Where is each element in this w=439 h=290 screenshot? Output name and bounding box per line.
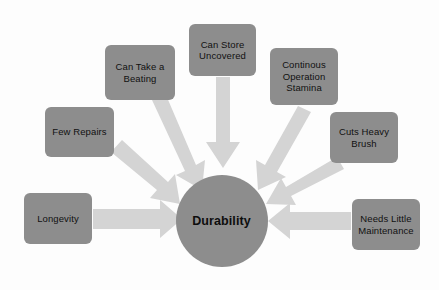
node-label-cuts-heavy-brush: Cuts Heavy Brush — [339, 126, 389, 149]
node-label-continous-operation-stamina: Continous Operation Stamina — [282, 59, 326, 94]
node-label-longevity: Longevity — [37, 213, 79, 225]
node-label-few-repairs: Few Repairs — [52, 126, 106, 138]
node-longevity[interactable]: Longevity — [24, 193, 92, 244]
node-cuts-heavy-brush[interactable]: Cuts Heavy Brush — [330, 112, 398, 163]
node-needs-little-maintenance[interactable]: Needs Little Maintenance — [352, 199, 420, 250]
arrow-longevity — [93, 200, 182, 238]
node-label-needs-little-maintenance: Needs Little Maintenance — [358, 213, 414, 236]
node-label-can-store-uncovered: Can Store Uncovered — [199, 39, 246, 62]
arrow-needs-little-maintenance — [268, 203, 351, 239]
hub-label: Durability — [192, 214, 251, 228]
node-continous-operation-stamina[interactable]: Continous Operation Stamina — [270, 48, 338, 105]
node-label-can-take-a-beating: Can Take a Beating — [116, 61, 165, 84]
arrow-few-repairs — [111, 140, 180, 204]
arrow-can-store-uncovered — [206, 77, 240, 168]
node-can-store-uncovered[interactable]: Can Store Uncovered — [189, 24, 256, 76]
hub-node-durability[interactable]: Durability — [176, 175, 268, 267]
diagram-canvas: Durability Few Repairs Can Take a Beatin… — [0, 0, 439, 290]
node-few-repairs[interactable]: Few Repairs — [45, 107, 114, 157]
node-can-take-a-beating[interactable]: Can Take a Beating — [105, 45, 175, 100]
